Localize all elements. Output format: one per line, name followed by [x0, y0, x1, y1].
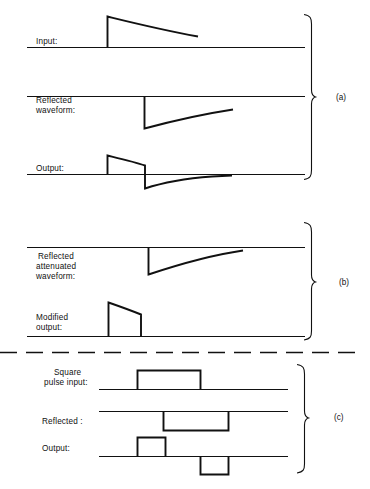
bracket-c	[297, 365, 309, 474]
trace-reflected-c	[164, 412, 229, 431]
label-reflected-c: Reflected :	[42, 417, 83, 428]
bracket-label-a: (a)	[336, 93, 346, 102]
bracket-b	[304, 223, 316, 341]
trace-square-pulse-input	[138, 371, 201, 390]
label-input: Input:	[36, 37, 57, 48]
label-output-a: Output:	[36, 164, 64, 175]
trace-modified-output	[109, 303, 142, 337]
figure-canvas	[0, 0, 370, 489]
trace-reflected-waveform	[145, 97, 234, 129]
label-modified-output-line2: output:	[36, 323, 62, 334]
label-reflected-attenuated-line3: waveform:	[36, 272, 75, 283]
label-modified-output-line1: Modified	[36, 313, 68, 324]
bracket-a	[304, 15, 316, 180]
label-square-pulse-input-line2: pulse input:	[44, 378, 88, 389]
trace-output-c	[138, 438, 166, 457]
label-square-pulse-input-line1: Square	[54, 368, 81, 379]
label-output-c: Output:	[42, 444, 70, 455]
trace-output-c-negative	[201, 457, 229, 475]
label-reflected-waveform-line2: waveform:	[36, 106, 75, 117]
label-reflected-waveform-line1: Reflected	[36, 96, 72, 107]
label-reflected-attenuated-line1: Reflected	[38, 252, 74, 263]
trace-input	[108, 17, 199, 48]
trace-reflected-attenuated	[149, 248, 244, 275]
bracket-label-c: (c)	[334, 413, 344, 422]
label-reflected-attenuated-line2: attenuated	[36, 262, 76, 273]
trace-output-a	[108, 156, 233, 189]
bracket-label-b: (b)	[339, 278, 349, 287]
waveform-figure: Input: Reflected waveform: Output: (a) R…	[0, 0, 370, 489]
